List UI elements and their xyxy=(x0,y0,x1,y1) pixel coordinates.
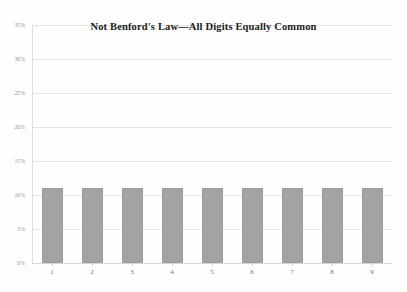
x-axis-tick-label: 9 xyxy=(357,268,387,276)
y-axis-tick-label: 20% xyxy=(0,124,25,130)
x-axis-tick-label: 8 xyxy=(317,268,347,276)
chart-title: Not Benford's Law—All Digits Equally Com… xyxy=(0,21,407,32)
bar-slot xyxy=(152,25,192,263)
y-axis-tick-label: 15% xyxy=(0,158,25,164)
x-axis-tick-mark xyxy=(92,263,93,266)
x-axis-tick-label: 2 xyxy=(77,268,107,276)
bar-slot xyxy=(312,25,352,263)
bar xyxy=(82,188,103,263)
x-axis-tick-mark xyxy=(292,263,293,266)
bar-slot xyxy=(112,25,152,263)
bar xyxy=(242,188,263,263)
bar-slot xyxy=(352,25,392,263)
y-axis-tick-label: 5% xyxy=(0,226,25,232)
x-axis-tick-label: 6 xyxy=(237,268,267,276)
bar-slot xyxy=(72,25,112,263)
x-axis-tick-mark xyxy=(172,263,173,266)
x-axis-tick-label: 3 xyxy=(117,268,147,276)
bar xyxy=(122,188,143,263)
bar-slot xyxy=(32,25,72,263)
bar-slot xyxy=(272,25,312,263)
x-axis-tick-label: 1 xyxy=(37,268,67,276)
x-axis-tick-mark xyxy=(252,263,253,266)
bar-slot xyxy=(232,25,272,263)
x-axis-tick-mark xyxy=(52,263,53,266)
bar xyxy=(162,188,183,263)
y-axis-tick-label: 10% xyxy=(0,192,25,198)
x-axis-tick-label: 4 xyxy=(157,268,187,276)
x-axis-tick-mark xyxy=(332,263,333,266)
bar xyxy=(202,188,223,263)
y-axis-tick-label: 0% xyxy=(0,260,25,266)
x-axis-tick-mark xyxy=(212,263,213,266)
bar xyxy=(322,188,343,263)
bar xyxy=(42,188,63,263)
x-axis-tick-label: 7 xyxy=(277,268,307,276)
y-axis-tick-label: 30% xyxy=(0,56,25,62)
x-axis-tick-label: 5 xyxy=(197,268,227,276)
y-axis-tick-label: 25% xyxy=(0,90,25,96)
x-axis-tick-mark xyxy=(372,263,373,266)
bars-group xyxy=(32,25,392,263)
bar-chart: Not Benford's Law—All Digits Equally Com… xyxy=(0,0,407,292)
bar-slot xyxy=(192,25,232,263)
bar xyxy=(282,188,303,263)
x-axis-tick-mark xyxy=(132,263,133,266)
bar xyxy=(362,188,383,263)
